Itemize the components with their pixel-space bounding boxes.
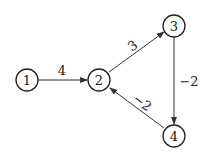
- edge-label-1-2: 4: [58, 63, 66, 78]
- graph-diagram: 4 3 −2 −2 1 2 3 4: [0, 0, 205, 159]
- node-3: 3: [163, 15, 185, 37]
- node-3-label: 3: [170, 19, 178, 34]
- edge-label-3-4: −2: [179, 74, 198, 89]
- node-1-label: 1: [23, 73, 31, 88]
- node-4-label: 4: [170, 129, 178, 144]
- edge-label-4-2: −2: [130, 91, 154, 114]
- node-4: 4: [163, 125, 185, 147]
- node-2: 2: [88, 69, 110, 91]
- node-2-label: 2: [95, 73, 103, 88]
- node-1: 1: [16, 69, 38, 91]
- edge-label-2-3: 3: [125, 37, 141, 54]
